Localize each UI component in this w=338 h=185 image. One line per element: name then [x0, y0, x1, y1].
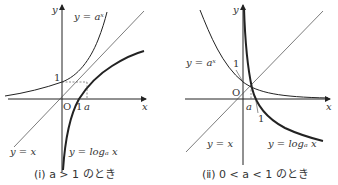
y-axis-label: y	[232, 4, 239, 15]
x-axis-label: x	[326, 101, 332, 112]
logarithm-curve	[244, 8, 323, 141]
label-identity: y = x	[9, 146, 36, 157]
origin-label: O	[63, 101, 71, 112]
label-exponential: y = aˣ	[73, 11, 104, 22]
diagram-canvas: y x O 1 1 a y = aˣ y = x y = logₐ x y x …	[0, 0, 338, 185]
y-axis-label: y	[51, 4, 58, 15]
panel-a-greater-than-1: y x O 1 1 a y = aˣ y = x y = logₐ x	[5, 4, 148, 172]
label-logarithm: y = logₐ x	[267, 138, 317, 149]
identity-line	[14, 11, 144, 147]
x-axis-label: x	[142, 101, 148, 112]
tick-x-1: 1	[76, 101, 82, 112]
tick-y-1: 1	[233, 58, 239, 69]
identity-line	[186, 11, 323, 152]
tick-y-1: 1	[54, 72, 60, 83]
exponential-curve	[200, 10, 328, 98]
label-logarithm: y = logₐ x	[68, 146, 118, 157]
caption-panel-2: (ⅱ) 0 < a < 1 のとき	[202, 165, 309, 181]
origin-label: O	[232, 87, 240, 98]
label-exponential: y = aˣ	[185, 57, 216, 68]
label-identity: y = x	[206, 138, 233, 149]
panel-a-between-0-and-1: y x O 1 1 a y = aˣ y = x y = logₐ x	[185, 4, 332, 165]
tick-x-1: 1	[258, 113, 264, 124]
caption-panel-1: (ⅰ) a > 1 のとき	[34, 165, 116, 181]
tick-x-a: a	[84, 101, 90, 112]
tick-x-a: a	[246, 101, 252, 112]
